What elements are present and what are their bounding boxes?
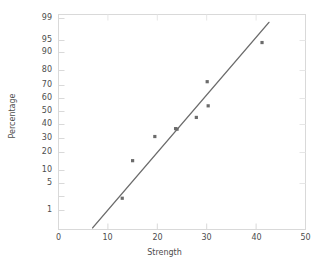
data-point: [195, 116, 198, 119]
data-point: [206, 80, 209, 83]
ytick-label-90: 90: [24, 48, 52, 56]
xtick-label-40: 40: [244, 234, 269, 242]
xtick-label-50: 50: [293, 234, 318, 242]
plot-frame: [59, 15, 306, 230]
xtick-label-30: 30: [194, 234, 219, 242]
data-point: [153, 135, 156, 138]
xtick-label-0: 0: [46, 234, 71, 242]
ytick-label-70: 70: [24, 81, 52, 89]
data-point: [207, 104, 210, 107]
ytick-label-40: 40: [24, 120, 52, 128]
xtick-label-10: 10: [95, 234, 120, 242]
ytick-label-80: 80: [24, 66, 52, 74]
probability-plot-figure: 99 95 90 80 70 60 50 40 30 20 10 5 1 0 1…: [0, 0, 329, 271]
data-point: [175, 128, 178, 131]
ytick-label-10: 10: [24, 166, 52, 174]
ytick-label-30: 30: [24, 134, 52, 142]
ytick-label-20: 20: [24, 148, 52, 156]
y-axis-title: Percentage: [9, 71, 17, 161]
ytick-label-1: 1: [24, 206, 52, 214]
ytick-label-50: 50: [24, 107, 52, 115]
x-axis-title: Strength: [0, 249, 329, 257]
ytick-label-99: 99: [24, 14, 52, 22]
ytick-label-60: 60: [24, 94, 52, 102]
ytick-label-95: 95: [24, 36, 52, 44]
ytick-label-5: 5: [24, 179, 52, 187]
xtick-label-20: 20: [145, 234, 170, 242]
data-point: [131, 159, 134, 162]
data-point: [121, 197, 124, 200]
data-point: [260, 41, 263, 44]
